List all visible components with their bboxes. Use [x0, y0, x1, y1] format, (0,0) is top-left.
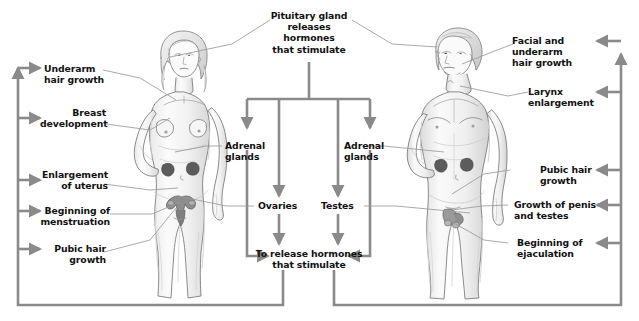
effect-beginning-of-ejaculation: Beginning of ejaculation — [517, 237, 593, 259]
release-hormones-box: To release hormones that stimulate — [249, 248, 369, 270]
adrenal-glands-female-label: Adrenal glands — [225, 140, 273, 162]
male-body-illustration — [404, 22, 516, 300]
effect-pubic-hair-growth-male: Pubic hair growth — [540, 164, 596, 186]
effect-breast-development: Breast development — [40, 107, 106, 129]
effect-beginning-of-menstruation: Beginning of menstruation — [40, 205, 110, 227]
effect-underarm-hair-growth: Underarm hair growth — [44, 63, 106, 85]
pituitary-gland-box: Pituitary gland releases hormones that s… — [247, 10, 371, 55]
effect-enlargement-of-uterus: Enlargement of uterus — [40, 169, 108, 191]
effect-facial-and-underarm-hair-growth: Facial and underarm hair growth — [512, 35, 586, 69]
effect-pubic-hair-growth-female: Pubic hair growth — [40, 243, 106, 265]
adrenal-glands-male-label: Adrenal glands — [344, 140, 392, 162]
puberty-hormone-diagram: Pituitary gland releases hormones that s… — [0, 0, 639, 321]
effect-growth-of-penis-and-testes: Growth of penis and testes — [514, 199, 596, 221]
ovaries-label: Ovaries — [258, 200, 298, 211]
female-body-illustration — [128, 24, 240, 300]
effect-larynx-enlargement: Larynx enlargement — [528, 86, 594, 108]
testes-label: Testes — [321, 200, 361, 211]
